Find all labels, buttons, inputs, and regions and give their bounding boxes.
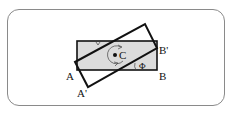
center-point xyxy=(113,53,117,57)
label-B: B xyxy=(159,70,166,82)
label-angle-phi: Φ xyxy=(139,61,146,71)
label-B-prime: B' xyxy=(159,44,168,56)
rotation-diagram: C A B B' A' Φ xyxy=(0,0,234,113)
label-center: C xyxy=(119,49,126,61)
label-A-prime: A' xyxy=(77,87,87,99)
label-A: A xyxy=(66,70,74,82)
